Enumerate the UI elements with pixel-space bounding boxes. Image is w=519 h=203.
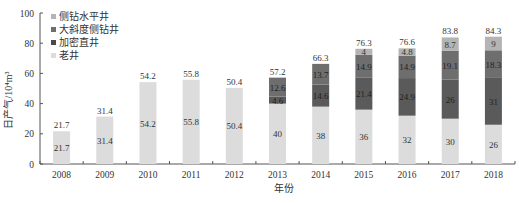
bar-group-2012: 50.450.42012 bbox=[225, 77, 244, 180]
segment-value-label: 31.4 bbox=[97, 136, 113, 146]
segment-value-label: 4.8 bbox=[401, 47, 413, 57]
total-value-label: 55.8 bbox=[183, 69, 199, 79]
bar-group-2015: 3621.414.9476.32015 bbox=[354, 38, 373, 180]
bar-group-2009: 31.431.42009 bbox=[95, 106, 114, 180]
segment-value-label: 32 bbox=[403, 135, 412, 145]
legend-item: 大斜度侧钻井 bbox=[51, 23, 119, 35]
total-value-label: 50.4 bbox=[226, 77, 242, 87]
total-value-label: 66.3 bbox=[313, 53, 329, 63]
x-tick-label: 2015 bbox=[354, 170, 373, 180]
segment-value-label: 38 bbox=[316, 131, 326, 141]
x-tick-label: 2016 bbox=[398, 170, 417, 180]
x-tick-label: 2011 bbox=[182, 170, 201, 180]
stacked-bar-chart: 020406080100 21.721.7200831.431.4200954.… bbox=[0, 0, 519, 203]
x-tick-label: 2012 bbox=[225, 170, 244, 180]
bar-group-2010: 54.254.22010 bbox=[138, 71, 157, 180]
legend-label: 大斜度侧钻井 bbox=[59, 23, 119, 35]
legend-item: 加密直井 bbox=[51, 36, 99, 48]
total-value-label: 54.2 bbox=[140, 71, 156, 81]
bar-group-2011: 55.855.82011 bbox=[182, 69, 201, 180]
segment-value-label: 21.4 bbox=[356, 89, 372, 99]
segment-value-label: 24.9 bbox=[399, 92, 415, 102]
legend-label: 老井 bbox=[59, 49, 79, 61]
total-value-label: 76.3 bbox=[356, 38, 372, 48]
segment-value-label: 12.6 bbox=[270, 83, 286, 93]
legend: 侧钻水平井大斜度侧钻井加密直井老井 bbox=[51, 10, 119, 61]
segment-value-label: 14.9 bbox=[399, 62, 415, 72]
x-tick-label: 2008 bbox=[52, 170, 71, 180]
bar-group-2013: 404.612.657.22013 bbox=[268, 67, 287, 180]
segment-value-label: 40 bbox=[273, 129, 283, 139]
x-tick-label: 2017 bbox=[441, 170, 460, 180]
bar-group-2014: 3814.613.766.32014 bbox=[311, 53, 330, 180]
x-axis-label: 年份 bbox=[274, 182, 294, 194]
segment-value-label: 54.2 bbox=[140, 119, 156, 129]
y-axis-label: 日产气/10⁴m³ bbox=[2, 71, 14, 128]
legend-swatch bbox=[51, 27, 56, 32]
x-tick-label: 2014 bbox=[311, 170, 330, 180]
total-value-label: 57.2 bbox=[270, 67, 286, 77]
y-tick-label: 20 bbox=[25, 129, 35, 139]
segment-value-label: 14.6 bbox=[313, 91, 329, 101]
x-tick-label: 2018 bbox=[484, 170, 503, 180]
total-value-label: 83.8 bbox=[442, 26, 458, 36]
total-value-label: 84.3 bbox=[486, 26, 502, 36]
segment-value-label: 26 bbox=[446, 95, 456, 105]
segment-value-label: 18.3 bbox=[486, 60, 502, 70]
total-value-label: 76.6 bbox=[399, 37, 415, 47]
legend-swatch bbox=[51, 14, 56, 19]
legend-label: 侧钻水平井 bbox=[59, 10, 109, 22]
y-tick-label: 60 bbox=[25, 69, 35, 79]
bar-group-2017: 302619.18.783.82017 bbox=[441, 26, 460, 180]
legend-swatch bbox=[51, 53, 56, 58]
segment-value-label: 13.7 bbox=[313, 70, 329, 80]
segment-value-label: 4.6 bbox=[272, 96, 284, 106]
y-tick-label: 0 bbox=[29, 160, 34, 170]
segment-value-label: 31 bbox=[489, 97, 498, 107]
segment-value-label: 50.4 bbox=[226, 121, 242, 131]
y-tick-label: 100 bbox=[20, 9, 35, 19]
total-value-label: 21.7 bbox=[54, 120, 70, 130]
bar-group-2018: 263118.3984.32018 bbox=[484, 26, 503, 180]
y-tick-label: 40 bbox=[25, 99, 35, 109]
segment-value-label: 21.7 bbox=[54, 143, 70, 153]
segment-value-label: 14.9 bbox=[356, 62, 372, 72]
segment-value-label: 36 bbox=[359, 132, 369, 142]
segment-value-label: 30 bbox=[446, 137, 456, 147]
legend-swatch bbox=[51, 40, 56, 45]
bar-group-2016: 3224.914.94.876.62016 bbox=[398, 37, 417, 180]
segment-value-label: 55.8 bbox=[183, 117, 199, 127]
legend-item: 老井 bbox=[51, 49, 79, 61]
legend-item: 侧钻水平井 bbox=[51, 10, 109, 22]
segment-value-label: 9 bbox=[491, 39, 496, 49]
x-tick-label: 2009 bbox=[95, 170, 114, 180]
x-tick-label: 2013 bbox=[268, 170, 287, 180]
legend-label: 加密直井 bbox=[59, 36, 99, 48]
bar-group-2008: 21.721.72008 bbox=[52, 120, 71, 180]
segment-value-label: 26 bbox=[489, 140, 499, 150]
total-value-label: 31.4 bbox=[97, 106, 113, 116]
segment-value-label: 19.1 bbox=[442, 61, 458, 71]
bars: 21.721.7200831.431.4200954.254.2201055.8… bbox=[52, 26, 503, 180]
segment-value-label: 4 bbox=[362, 47, 367, 57]
x-tick-label: 2010 bbox=[138, 170, 157, 180]
y-tick-label: 80 bbox=[25, 39, 35, 49]
segment-value-label: 8.7 bbox=[445, 40, 457, 50]
